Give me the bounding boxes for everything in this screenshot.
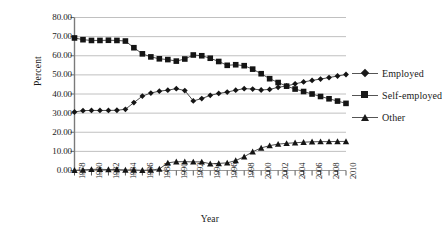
legend-item-other[interactable]: Other — [352, 106, 432, 128]
x-axis-tick-label: 1982 — [112, 162, 121, 178]
x-axis-tick-label: 2008 — [332, 162, 341, 178]
x-axis-tick-label: 1980 — [95, 162, 104, 178]
x-axis-tick-label: 1994 — [213, 162, 222, 178]
x-axis-tick-label: 2000 — [264, 162, 273, 178]
x-axis-tick-label: 1996 — [230, 162, 239, 178]
square-marker-icon — [361, 91, 368, 98]
legend-item-self-employed[interactable]: Self-employed — [352, 84, 432, 106]
legend-swatch-triangle-icon — [352, 112, 378, 122]
diamond-marker-icon — [361, 69, 369, 77]
x-axis-tick-label: 1992 — [196, 162, 205, 178]
legend-label: Other — [382, 112, 405, 123]
legend-label: Employed — [382, 68, 424, 79]
legend-swatch-square-icon — [352, 90, 378, 100]
triangle-marker-icon — [361, 114, 369, 121]
x-axis-tick-label: 1990 — [180, 162, 189, 178]
legend-swatch-diamond-icon — [352, 68, 378, 78]
x-axis-tick-label: 1988 — [163, 162, 172, 178]
x-axis-tick-label: 1984 — [129, 162, 138, 178]
legend-label: Self-employed — [382, 90, 442, 101]
x-axis-tick-label: 2010 — [349, 162, 358, 178]
chart-legend: EmployedSelf-employedOther — [352, 62, 432, 128]
x-axis-tick-label: 2002 — [281, 162, 290, 178]
x-axis-tick-label: 1998 — [247, 162, 256, 178]
x-axis-tick-label: 2006 — [315, 162, 324, 178]
x-axis-tick-label: 1986 — [146, 162, 155, 178]
x-axis-title: Year — [150, 214, 270, 224]
legend-item-employed[interactable]: Employed — [352, 62, 432, 84]
x-axis-tick-label: 2004 — [298, 162, 307, 178]
x-axis-tick-label: 1978 — [78, 162, 87, 178]
y-axis-title: Percent — [33, 41, 43, 101]
